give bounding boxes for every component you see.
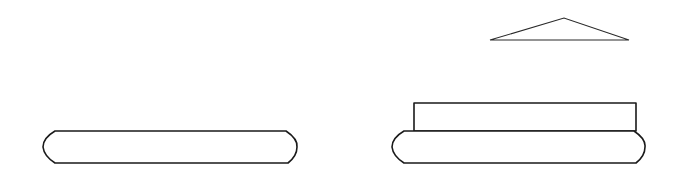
right-base-slab [392,131,645,163]
diagram-canvas [0,0,678,181]
left-base-slab [43,131,297,163]
triangle-cap [490,18,629,40]
right-block [414,103,636,131]
